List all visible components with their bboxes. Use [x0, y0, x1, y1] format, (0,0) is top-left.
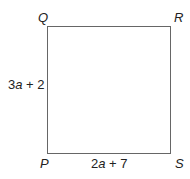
vertex-p-label: P	[40, 157, 49, 170]
vertex-s-label: S	[175, 157, 184, 170]
bottom-side-length-label: 2a + 7	[91, 157, 128, 170]
square-pqrs	[47, 26, 171, 154]
vertex-r-label: R	[174, 11, 183, 24]
left-side-length-label: 3a + 2	[8, 78, 45, 91]
vertex-q-label: Q	[38, 11, 48, 24]
